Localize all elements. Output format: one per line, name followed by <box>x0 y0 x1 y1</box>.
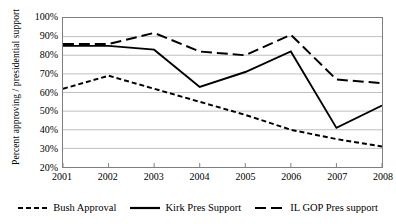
y-tick-label: 80% <box>40 50 58 60</box>
x-axis-tick-labels: 20012002200320042005200620072008 <box>62 171 383 187</box>
plot-area <box>62 17 383 168</box>
x-tick-label: 2006 <box>281 171 301 183</box>
x-tick-label: 2001 <box>52 171 72 183</box>
legend-item[interactable]: IL GOP Pres support <box>255 202 378 214</box>
plot-svg <box>63 18 382 167</box>
legend-item[interactable]: Bush Approval <box>18 202 116 214</box>
line-chart: Percent approving / presidential support… <box>0 0 396 224</box>
legend-item[interactable]: Kirk Pres Support <box>130 202 241 214</box>
x-tick-label: 2008 <box>373 171 393 183</box>
x-tick-label: 2005 <box>235 171 255 183</box>
chart-legend: Bush ApprovalKirk Pres SupportIL GOP Pre… <box>0 198 396 218</box>
y-tick-label: 90% <box>40 31 58 41</box>
y-tick-label: 40% <box>40 125 58 135</box>
y-tick-label: 70% <box>40 69 58 79</box>
long-dash-key <box>255 204 285 212</box>
x-tick-label: 2003 <box>144 171 164 183</box>
x-tick-label: 2007 <box>327 171 347 183</box>
short-dash-key <box>18 204 48 212</box>
y-tick-label: 50% <box>40 106 58 116</box>
x-tick-label: 2004 <box>190 171 210 183</box>
y-tick-label: 100% <box>35 12 58 22</box>
x-tick-label: 2002 <box>98 171 118 183</box>
series-kirk-pres-support <box>63 46 382 128</box>
x-axis-ticks <box>63 163 382 167</box>
y-tick-label: 60% <box>40 88 58 98</box>
legend-label: Bush Approval <box>53 202 116 214</box>
y-axis-title: Percent approving / presidential support <box>11 0 21 177</box>
legend-label: Kirk Pres Support <box>165 202 241 214</box>
legend-label: IL GOP Pres support <box>290 202 378 214</box>
y-axis-tick-labels: 20%30%40%50%60%70%80%90%100% <box>22 17 58 168</box>
y-tick-label: 30% <box>40 144 58 154</box>
solid-key <box>130 204 160 212</box>
